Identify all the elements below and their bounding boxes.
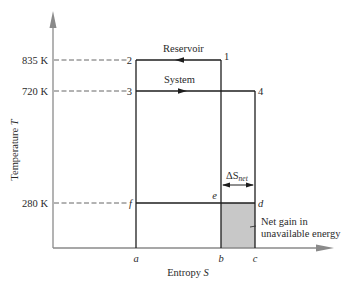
reservoir-label: Reservoir (163, 43, 204, 54)
point-e-label: e (212, 190, 217, 201)
system-label: System (164, 74, 195, 85)
entropy-mark-c: c (253, 253, 258, 264)
x-axis-arrow-icon (316, 245, 334, 252)
reservoir-arrow-icon (175, 57, 184, 62)
y-axis-title: Temperature T (9, 118, 20, 181)
delta-s-right-arrow-icon (246, 183, 254, 188)
temp-label-835: 835 K (22, 55, 48, 66)
entropy-mark-a: a (133, 253, 138, 264)
delta-s-left-arrow-icon (222, 183, 230, 188)
point-4-label: 4 (258, 86, 264, 97)
point-f-label: f (129, 198, 134, 209)
point-2-label: 2 (127, 55, 132, 66)
temp-label-720: 720 K (22, 86, 48, 97)
y-axis-arrow-icon (50, 11, 57, 28)
annotation-line1: Net gain in (261, 216, 308, 227)
delta-s-label: ΔSnet (226, 170, 249, 183)
unavailable-energy-area (221, 203, 255, 248)
annotation-line2: unavailable energy (261, 228, 341, 239)
entropy-mark-b: b (218, 253, 223, 264)
x-axis-title: Entropy S (167, 267, 209, 278)
system-arrow-icon (178, 88, 187, 93)
point-3-label: 3 (127, 86, 132, 97)
point-1-label: 1 (224, 51, 229, 62)
point-d-label: d (258, 198, 264, 209)
temp-label-280: 280 K (22, 198, 48, 209)
ts-diagram: 835 K 720 K 280 K ΔSnet 2 3 f 1 4 e d Re… (0, 0, 343, 285)
